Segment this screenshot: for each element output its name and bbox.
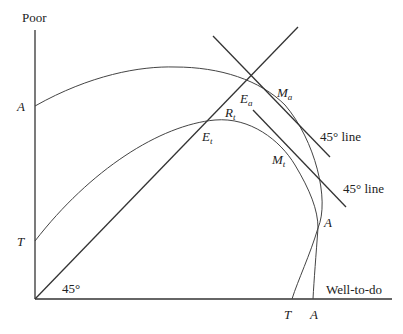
point-A: A: [323, 215, 332, 230]
point-Mt: Mt: [271, 152, 286, 169]
y-tick-A: A: [16, 99, 25, 114]
y-tick-T: T: [17, 234, 25, 249]
origin-45-degree-line: [35, 27, 298, 299]
point-Ea: Ea: [239, 91, 253, 108]
angle-label: 45°: [62, 281, 80, 296]
x-axis-label: Well-to-do: [326, 282, 382, 297]
x-tick-T: T: [284, 307, 292, 322]
upper-tangent-label: 45° line: [320, 129, 361, 144]
point-Ma: Ma: [276, 85, 293, 102]
lower-tangent-label: 45° line: [343, 181, 384, 196]
curve-T-T: [35, 120, 318, 299]
point-Rt: Rt: [224, 105, 236, 122]
y-axis-label: Poor: [22, 10, 47, 25]
curve-A-A: [35, 67, 322, 299]
point-Et: Et: [201, 129, 213, 146]
x-tick-A: A: [309, 307, 318, 322]
utility-frontier-diagram: Poor Well-to-do 45° A T T A Ea Ma Rt Et …: [0, 0, 403, 334]
